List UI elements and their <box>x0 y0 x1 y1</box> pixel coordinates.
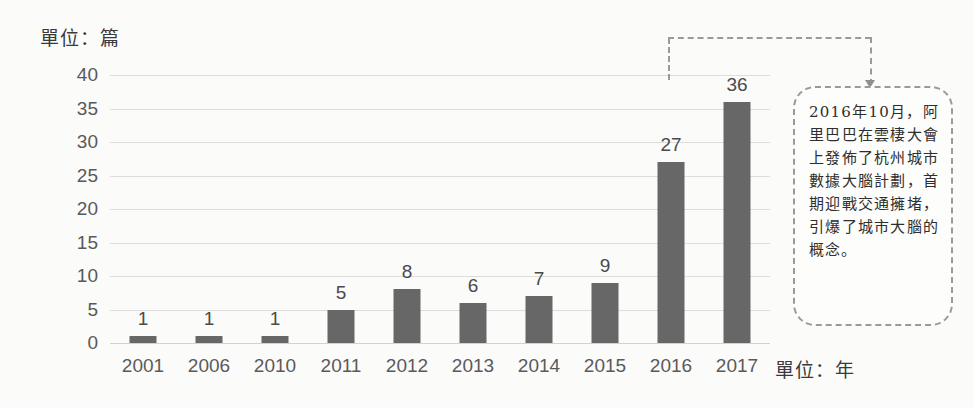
y-axis-tick-label: 40 <box>77 64 98 86</box>
bar <box>658 162 685 343</box>
annotation-callout-text: 2016年10月，阿里巴巴在雲棲大會上發佈了杭州城市數據大腦計劃，首期迎戰交通擁… <box>809 101 939 262</box>
bar-group: 12010 <box>244 75 306 343</box>
bar-value-label: 1 <box>138 308 149 330</box>
y-axis-tick-label: 25 <box>77 165 98 187</box>
bar-value-label: 8 <box>402 261 413 283</box>
bar-group: 82012 <box>376 75 438 343</box>
bar-value-label: 1 <box>270 308 281 330</box>
x-axis-tick-label: 2012 <box>386 355 428 377</box>
x-axis-tick-label: 2001 <box>122 355 164 377</box>
bar-value-label: 27 <box>660 134 681 156</box>
bar-group: 12006 <box>178 75 240 343</box>
y-axis-tick-label: 15 <box>77 232 98 254</box>
bar-group: 62013 <box>442 75 504 343</box>
bar-value-label: 1 <box>204 308 215 330</box>
callout-leader-line-up <box>668 38 670 80</box>
plot-area: 0510152025303540 12001120061201052011820… <box>110 75 770 343</box>
x-axis-tick-label: 2013 <box>452 355 494 377</box>
bar-value-label: 7 <box>534 268 545 290</box>
x-axis-tick-label: 2010 <box>254 355 296 377</box>
bar-value-label: 36 <box>726 74 747 96</box>
y-axis-tick-label: 20 <box>77 198 98 220</box>
gridline <box>110 343 770 344</box>
bar <box>262 336 289 343</box>
bar <box>526 296 553 343</box>
y-axis-tick-label: 35 <box>77 98 98 120</box>
bar-value-label: 9 <box>600 255 611 277</box>
bar-value-label: 5 <box>336 282 347 304</box>
x-axis-tick-label: 2011 <box>321 355 362 377</box>
bar-group: 92015 <box>574 75 636 343</box>
bar-group: 72014 <box>508 75 570 343</box>
bar-group: 272016 <box>640 75 702 343</box>
bar <box>460 303 487 343</box>
y-axis-tick-label: 10 <box>77 265 98 287</box>
y-axis-tick-label: 30 <box>77 131 98 153</box>
bar-group: 52011 <box>310 75 372 343</box>
bar <box>724 102 751 343</box>
x-axis-tick-label: 2015 <box>584 355 626 377</box>
y-axis-unit-caption: 單位：篇 <box>40 23 120 50</box>
y-axis-tick-label: 0 <box>87 332 98 354</box>
x-axis-unit-caption: 單位：年 <box>775 355 855 382</box>
x-axis-tick-label: 2017 <box>716 355 758 377</box>
bar <box>130 336 157 343</box>
x-axis-tick-label: 2016 <box>650 355 692 377</box>
x-axis-tick-label: 2006 <box>188 355 230 377</box>
bar <box>394 289 421 343</box>
callout-leader-line-across <box>668 37 871 39</box>
bar <box>196 336 223 343</box>
x-axis-tick-label: 2014 <box>518 355 560 377</box>
bar-group: 12001 <box>112 75 174 343</box>
annotation-callout-box: 2016年10月，阿里巴巴在雲棲大會上發佈了杭州城市數據大腦計劃，首期迎戰交通擁… <box>793 86 953 326</box>
bar <box>592 283 619 343</box>
bar-group: 362017 <box>706 75 768 343</box>
y-axis-tick-label: 5 <box>87 299 98 321</box>
bar-value-label: 6 <box>468 275 479 297</box>
bar <box>328 310 355 344</box>
bar-chart-figure: 單位：篇 0510152025303540 120011200612010520… <box>0 0 974 408</box>
callout-leader-line-down <box>870 37 872 85</box>
